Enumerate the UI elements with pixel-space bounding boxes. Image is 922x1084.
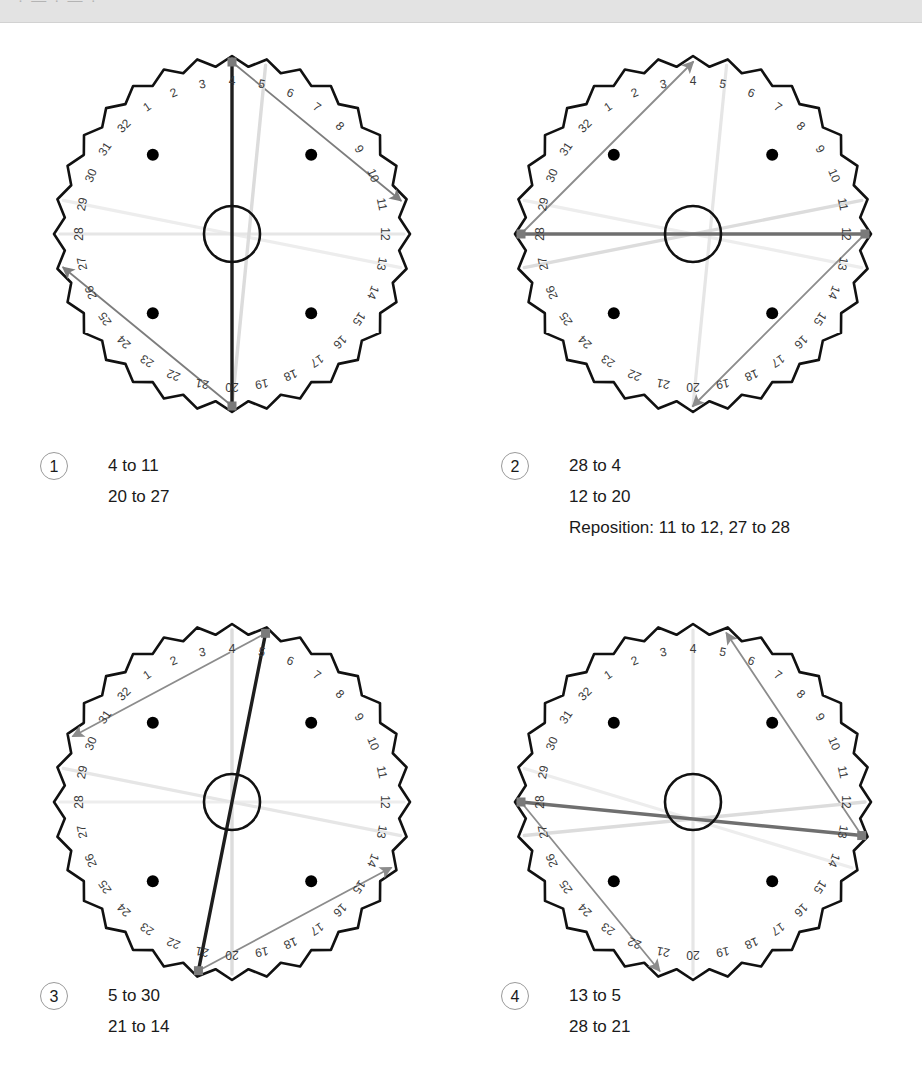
wheel-diagram-2[interactable]: 1234567891011121314151617181920212223242…	[461, 22, 922, 462]
chord-endpoint-marker[interactable]	[861, 230, 870, 239]
wheel-peg-dot[interactable]	[766, 717, 778, 729]
wheel-tick-label-12: 12	[839, 227, 853, 241]
wheel-diagram-1[interactable]: 1234567891011121314151617181920212223242…	[0, 22, 461, 462]
chord-endpoint-marker[interactable]	[228, 402, 237, 411]
wheel-tick-label-20: 20	[686, 948, 700, 962]
wheel-diagram-3[interactable]: 1234567891011121314151617181920212223242…	[0, 590, 461, 1030]
wheel-tick-label-12: 12	[839, 795, 853, 809]
wheel-svg: 1234567891011121314151617181920212223242…	[461, 590, 922, 1030]
wheel-svg: 1234567891011121314151617181920212223242…	[0, 590, 461, 1030]
panel-grid: 1234567891011121314151617181920212223242…	[0, 22, 922, 1084]
wheel-peg-dot[interactable]	[147, 307, 159, 319]
wheel-peg-dot[interactable]	[608, 307, 620, 319]
caption-1: 1 4 to 11 20 to 27	[40, 450, 460, 512]
wheel-peg-dot[interactable]	[147, 717, 159, 729]
panel-number-badge-3: 3	[40, 982, 68, 1010]
top-gray-band: · — · — ·	[0, 0, 922, 23]
panel-number-badge-4: 4	[501, 982, 529, 1010]
wheel-tick-label-20: 20	[225, 380, 239, 394]
panel-number-badge-2: 2	[501, 452, 529, 480]
wheel-tick-label-28: 28	[72, 795, 86, 809]
caption-line-reposition: Reposition: 11 to 12, 27 to 28	[569, 512, 790, 543]
wheel-tick-label-4: 4	[690, 74, 697, 88]
caption-line: 21 to 14	[108, 1011, 169, 1042]
wheel-tick-label-20: 20	[225, 948, 239, 962]
chord-endpoint-marker[interactable]	[517, 230, 526, 239]
caption-line: 13 to 5	[569, 980, 630, 1011]
chord-endpoint-marker[interactable]	[517, 798, 526, 807]
wheel-peg-dot[interactable]	[305, 717, 317, 729]
wheel-tick-label-4: 4	[229, 74, 236, 88]
caption-lines-1: 4 to 11 20 to 27	[108, 450, 169, 512]
wheel-peg-dot[interactable]	[608, 149, 620, 161]
wheel-tick-label-28: 28	[533, 227, 547, 241]
wheel-tick-label-12: 12	[378, 795, 392, 809]
panel-1: 1234567891011121314151617181920212223242…	[0, 22, 461, 590]
chord-endpoint-marker[interactable]	[857, 831, 866, 840]
wheel-peg-dot[interactable]	[608, 875, 620, 887]
caption-3: 3 5 to 30 21 to 14	[40, 980, 460, 1042]
wheel-tick-label-12: 12	[378, 227, 392, 241]
chord-endpoint-marker[interactable]	[228, 58, 237, 67]
wheel-diagram-4[interactable]: 1234567891011121314151617181920212223242…	[461, 590, 922, 1030]
panel-4: 1234567891011121314151617181920212223242…	[461, 590, 922, 1084]
caption-lines-2: 28 to 4 12 to 20 Reposition: 11 to 12, 2…	[569, 450, 790, 543]
panel-2: 1234567891011121314151617181920212223242…	[461, 22, 922, 590]
top-band-ghost-text: · — · — ·	[0, 0, 922, 3]
caption-2: 2 28 to 4 12 to 20 Reposition: 11 to 12,…	[501, 450, 921, 543]
wheel-tick-label-20: 20	[686, 380, 700, 394]
caption-line: 5 to 30	[108, 980, 169, 1011]
panel-number-badge-1: 1	[40, 452, 68, 480]
caption-line: 4 to 11	[108, 450, 169, 481]
wheel-peg-dot[interactable]	[766, 149, 778, 161]
wheel-svg: 1234567891011121314151617181920212223242…	[461, 22, 922, 462]
wheel-peg-dot[interactable]	[147, 875, 159, 887]
caption-line: 20 to 27	[108, 481, 169, 512]
caption-4: 4 13 to 5 28 to 21	[501, 980, 921, 1042]
panel-3: 1234567891011121314151617181920212223242…	[0, 590, 461, 1084]
wheel-peg-dot[interactable]	[305, 307, 317, 319]
wheel-tick-label-4: 4	[690, 642, 697, 656]
wheel-tick-label-28: 28	[533, 795, 547, 809]
wheel-peg-dot[interactable]	[766, 307, 778, 319]
wheel-peg-dot[interactable]	[305, 149, 317, 161]
wheel-peg-dot[interactable]	[766, 875, 778, 887]
caption-lines-3: 5 to 30 21 to 14	[108, 980, 169, 1042]
caption-line: 28 to 21	[569, 1011, 630, 1042]
wheel-svg: 1234567891011121314151617181920212223242…	[0, 22, 461, 462]
wheel-peg-dot[interactable]	[305, 875, 317, 887]
chord-endpoint-marker[interactable]	[261, 629, 270, 638]
wheel-peg-dot[interactable]	[147, 149, 159, 161]
caption-line: 12 to 20	[569, 481, 790, 512]
wheel-tick-label-4: 4	[229, 642, 236, 656]
caption-line: 28 to 4	[569, 450, 790, 481]
wheel-peg-dot[interactable]	[608, 717, 620, 729]
wheel-tick-label-28: 28	[72, 227, 86, 241]
caption-lines-4: 13 to 5 28 to 21	[569, 980, 630, 1042]
chord-endpoint-marker[interactable]	[194, 966, 203, 975]
